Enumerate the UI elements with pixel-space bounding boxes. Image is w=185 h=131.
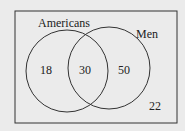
americans-only-value: 18 xyxy=(40,64,52,76)
intersection-value: 30 xyxy=(79,64,91,76)
outside-value: 22 xyxy=(149,100,161,112)
americans-label: Americans xyxy=(38,17,90,29)
men-only-value: 50 xyxy=(118,64,130,76)
americans-circle xyxy=(26,30,108,112)
men-label: Men xyxy=(136,28,158,40)
